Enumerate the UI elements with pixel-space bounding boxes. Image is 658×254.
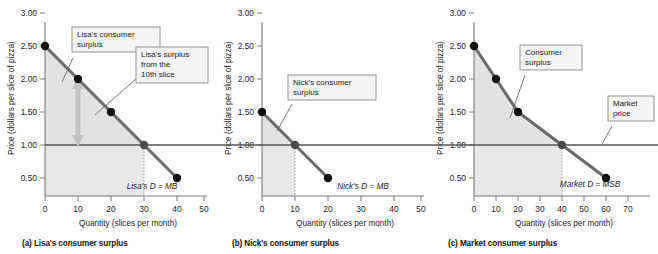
x-tick-40: 40 (389, 204, 399, 214)
callout-2-line-2: price (613, 109, 631, 118)
x-tick-30: 30 (535, 204, 545, 214)
x-tick-0: 0 (43, 204, 48, 214)
y-tick-200: 2.00 (238, 74, 255, 84)
x-axis-title: Quantity (slices per month) (296, 219, 394, 228)
x-tick-50: 50 (416, 204, 426, 214)
callout-2-leader (95, 78, 137, 115)
callout-1-line-1: Lisa's consumer (77, 30, 135, 39)
x-tick-10: 10 (73, 204, 83, 214)
y-tick-150: 1.50 (238, 107, 255, 117)
callout-2-line-1: Market (613, 99, 638, 108)
y-tick-250: 2.50 (238, 41, 255, 51)
x-tick-20: 20 (323, 204, 333, 214)
x-tick-20: 20 (106, 204, 116, 214)
y-axis-title: Price (dollars per slice of pizza) (224, 41, 233, 155)
y-tick-050: 0.50 (450, 173, 467, 183)
x-tick-50: 50 (199, 204, 209, 214)
callout-2-leader (602, 126, 612, 144)
callout-2-line-2: from the (141, 60, 171, 69)
y-tick-200: 2.00 (450, 74, 467, 84)
callout-1-line-2: surplus (293, 88, 319, 97)
x-tick-labels: 0 10 20 30 40 50 60 70 (472, 204, 633, 214)
callout-1-line-1: Consumer (525, 48, 562, 57)
x-tick-60: 60 (601, 204, 611, 214)
y-tick-200: 2.00 (21, 74, 38, 84)
x-tick-0: 0 (472, 204, 477, 214)
x-tick-labels: 0 10 20 30 40 50 (260, 204, 426, 214)
y-tick-labels: 0.50 1.00 1.50 2.00 2.50 3.00 (21, 8, 38, 183)
callout-2-line-3: 10th slice (141, 70, 175, 79)
panel-c-plot: 0.50 1.00 1.50 2.00 2.50 3.00 0 10 (430, 0, 658, 232)
x-tick-0: 0 (260, 204, 265, 214)
x-tick-40: 40 (172, 204, 182, 214)
y-tick-marks (257, 13, 262, 178)
y-tick-300: 3.00 (238, 8, 255, 18)
y-tick-100: 1.00 (21, 140, 38, 150)
x-tick-marks (262, 196, 421, 201)
panel-a-plot: 0.50 1.00 1.50 2.00 2.50 3.00 0 10 20 (0, 0, 220, 232)
y-tick-050: 0.50 (238, 173, 255, 183)
y-tick-labels: 0.50 1.00 1.50 2.00 2.50 3.00 (450, 8, 467, 183)
y-tick-150: 1.50 (21, 107, 38, 117)
x-tick-50: 50 (579, 204, 589, 214)
callout-1-line-2: surplus (525, 58, 551, 67)
y-tick-050: 0.50 (21, 173, 38, 183)
callout-2-line-1: Lisa's surplus (141, 50, 189, 59)
y-tick-150: 1.50 (450, 107, 467, 117)
demand-curve-label: Market D = MSB (560, 180, 621, 189)
x-tick-20: 20 (513, 204, 523, 214)
y-tick-marks (40, 13, 45, 178)
expenditure-region (474, 145, 562, 196)
y-tick-300: 3.00 (450, 8, 467, 18)
x-tick-marks (474, 196, 628, 201)
y-tick-250: 2.50 (450, 41, 467, 51)
y-tick-300: 3.00 (21, 8, 38, 18)
x-tick-10: 10 (290, 204, 300, 214)
demand-curve-label: Nick's D = MB (337, 182, 389, 191)
y-tick-marks (469, 13, 474, 178)
panel-lisa-consumer-surplus: 0.50 1.00 1.50 2.00 2.50 3.00 0 10 20 (0, 0, 220, 254)
x-tick-marks (45, 196, 204, 201)
x-tick-labels: 0 10 20 30 40 50 (43, 204, 209, 214)
y-axis-title: Price (dollars per slice of pizza) (7, 41, 16, 155)
x-tick-30: 30 (139, 204, 149, 214)
y-tick-labels: 0.50 1.00 1.50 2.00 2.50 3.00 (238, 8, 255, 183)
x-tick-70: 70 (623, 204, 633, 214)
panel-a-caption: (a) Lisa's consumer surplus (22, 239, 128, 248)
y-tick-250: 2.50 (21, 41, 38, 51)
callout-1-line-2: surplus (77, 40, 103, 49)
callout-1-line-1: Nick's consumer (293, 78, 352, 87)
panel-market-consumer-surplus: 0.50 1.00 1.50 2.00 2.50 3.00 0 10 (430, 0, 658, 254)
x-tick-30: 30 (356, 204, 366, 214)
demand-curve-label: Lisa's D = MB (127, 182, 178, 191)
callout-1-leader (277, 104, 292, 131)
panel-nick-consumer-surplus: 0.50 1.00 1.50 2.00 2.50 3.00 0 10 20 30 (220, 0, 430, 254)
consumer-surplus-figure: 0.50 1.00 1.50 2.00 2.50 3.00 0 10 20 (0, 0, 658, 254)
y-axis-title: Price (dollars per slice of pizza) (436, 41, 445, 155)
x-axis-title: Quantity (slices per month) (515, 219, 613, 228)
x-axis-title: Quantity (slices per month) (79, 219, 177, 228)
x-tick-40: 40 (557, 204, 567, 214)
panel-b-plot: 0.50 1.00 1.50 2.00 2.50 3.00 0 10 20 30 (220, 0, 430, 232)
expenditure-region (262, 145, 295, 196)
panel-b-caption: (b) Nick's consumer surplus (232, 239, 339, 248)
panel-c-caption: (c) Market consumer surplus (448, 239, 557, 248)
x-tick-10: 10 (491, 204, 501, 214)
